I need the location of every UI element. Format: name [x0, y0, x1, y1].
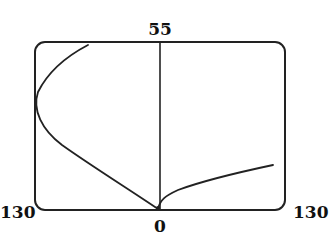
x-max-label: 130 [293, 202, 329, 222]
x-min-label: 130 [0, 202, 36, 222]
origin-point [156, 206, 160, 210]
right-curve [158, 165, 273, 209]
y-min-label: 0 [154, 216, 166, 236]
plot-canvas: 55 0 130 130 [0, 0, 334, 249]
y-max-label: 55 [148, 19, 172, 39]
left-curve [36, 45, 158, 209]
